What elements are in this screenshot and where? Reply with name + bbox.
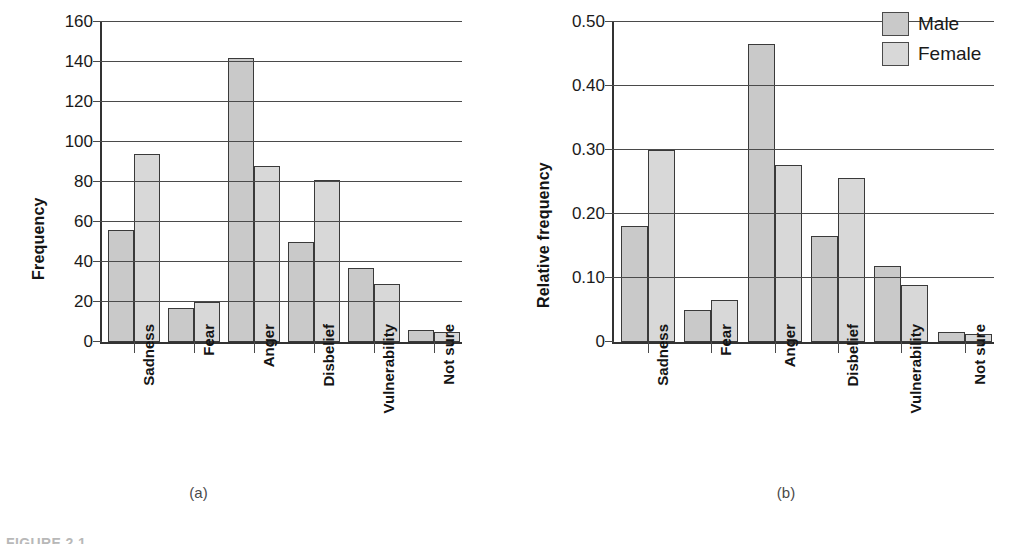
y-axis-tick-label: 60 bbox=[74, 212, 102, 232]
x-axis-label-disbelief: Disbelief bbox=[844, 324, 861, 387]
bar-vulnerability-male bbox=[348, 268, 374, 342]
legend-swatch-male-icon bbox=[882, 12, 909, 36]
y-axis-tick-label: 120 bbox=[65, 92, 102, 112]
bar-group: Disbelief bbox=[282, 22, 342, 342]
x-axis-label-anger: Anger bbox=[781, 324, 798, 367]
bar-group: Not sure bbox=[402, 22, 462, 342]
bar-group: Anger bbox=[222, 22, 282, 342]
gridline bbox=[614, 213, 994, 214]
subcaption-b: (b) bbox=[532, 484, 1015, 501]
y-axis-title-b: Relative frequency bbox=[535, 162, 553, 308]
figure-caption: FIGURE 2.1 bbox=[6, 535, 86, 544]
bar-not-sure-male bbox=[938, 332, 965, 342]
y-axis-tick-label: 140 bbox=[65, 52, 102, 72]
legend-label-male: Male bbox=[918, 13, 959, 35]
bar-group: Anger bbox=[741, 22, 804, 342]
x-axis-label-fear: Fear bbox=[717, 324, 734, 356]
gridline bbox=[102, 221, 462, 222]
bar-sadness-male bbox=[621, 226, 648, 342]
legend-item-female: Female bbox=[882, 40, 981, 68]
chart-panel-a: Frequency SadnessFearAngerDisbeliefVulne… bbox=[0, 0, 507, 500]
x-axis-tick-mark bbox=[711, 342, 712, 353]
y-axis-tick-label: 100 bbox=[65, 132, 102, 152]
x-axis-label-sadness: Sadness bbox=[654, 324, 671, 386]
x-axis-tick-mark bbox=[838, 342, 839, 353]
legend-label-female: Female bbox=[918, 43, 981, 65]
bar-group: Fear bbox=[677, 22, 740, 342]
y-axis-title-a: Frequency bbox=[30, 197, 48, 280]
bar-not-sure-male bbox=[408, 330, 434, 342]
x-axis-label-disbelief: Disbelief bbox=[320, 324, 337, 387]
bar-group: Disbelief bbox=[804, 22, 867, 342]
x-axis-label-sadness: Sadness bbox=[140, 324, 157, 386]
gridline bbox=[614, 277, 994, 278]
subcaption-a: (a) bbox=[0, 484, 452, 501]
bar-disbelief-female bbox=[838, 178, 865, 342]
x-axis-label-anger: Anger bbox=[260, 324, 277, 367]
x-axis-tick-mark bbox=[194, 342, 195, 353]
gridline bbox=[614, 149, 994, 150]
x-axis-label-fear: Fear bbox=[200, 324, 217, 356]
y-axis-tick-label: 160 bbox=[65, 12, 102, 32]
bar-group: Not sure bbox=[931, 22, 994, 342]
bar-sadness-female bbox=[134, 154, 160, 342]
y-axis-tick-label: 0.10 bbox=[572, 268, 614, 288]
x-axis-label-vulnerability: Vulnerability bbox=[907, 324, 924, 413]
gridline bbox=[102, 141, 462, 142]
y-axis-tick-label: 0.30 bbox=[572, 140, 614, 160]
y-axis-tick-label: 20 bbox=[74, 292, 102, 312]
y-axis-tick-label: 0.40 bbox=[572, 76, 614, 96]
x-axis-tick-mark bbox=[254, 342, 255, 353]
x-axis-tick-mark bbox=[314, 342, 315, 353]
y-axis-tick-label: 0 bbox=[84, 332, 102, 352]
x-axis-label-not-sure: Not sure bbox=[440, 324, 457, 385]
legend-swatch-female-icon bbox=[882, 42, 909, 66]
bar-group: Vulnerability bbox=[342, 22, 402, 342]
bar-anger-female bbox=[254, 166, 280, 342]
x-axis-label-vulnerability: Vulnerability bbox=[380, 324, 397, 413]
gridline bbox=[102, 181, 462, 182]
bar-anger-female bbox=[775, 165, 802, 342]
gridline bbox=[102, 21, 462, 22]
chart-panel-b: Relative frequency SadnessFearAngerDisbe… bbox=[507, 0, 1015, 500]
bar-sadness-female bbox=[648, 150, 675, 342]
y-axis-tick-label: 0.20 bbox=[572, 204, 614, 224]
x-axis-tick-mark bbox=[434, 342, 435, 353]
bar-disbelief-male bbox=[811, 236, 838, 342]
gridline bbox=[102, 301, 462, 302]
legend: Male Female bbox=[882, 10, 981, 68]
x-axis-tick-mark bbox=[648, 342, 649, 353]
y-axis-tick-label: 0.50 bbox=[572, 12, 614, 32]
gridline bbox=[102, 101, 462, 102]
bar-group-container-a: SadnessFearAngerDisbeliefVulnerabilityNo… bbox=[102, 22, 462, 342]
bar-group: Sadness bbox=[102, 22, 162, 342]
legend-item-male: Male bbox=[882, 10, 981, 38]
bar-disbelief-male bbox=[288, 242, 314, 342]
bar-fear-male bbox=[168, 308, 194, 342]
x-axis-label-not-sure: Not sure bbox=[971, 324, 988, 385]
x-axis-tick-mark bbox=[374, 342, 375, 353]
x-axis-tick-mark bbox=[965, 342, 966, 353]
bar-sadness-male bbox=[108, 230, 134, 342]
figure-container: Frequency SadnessFearAngerDisbeliefVulne… bbox=[0, 0, 1015, 544]
gridline bbox=[102, 61, 462, 62]
bar-anger-male bbox=[748, 44, 775, 342]
plot-area-a: SadnessFearAngerDisbeliefVulnerabilityNo… bbox=[100, 22, 462, 344]
x-axis-tick-mark bbox=[901, 342, 902, 353]
x-axis-tick-mark bbox=[134, 342, 135, 353]
y-axis-tick-label: 0 bbox=[596, 332, 614, 352]
y-axis-tick-label: 40 bbox=[74, 252, 102, 272]
gridline bbox=[102, 261, 462, 262]
bar-group: Vulnerability bbox=[867, 22, 930, 342]
y-axis-tick-label: 80 bbox=[74, 172, 102, 192]
plot-area-b: SadnessFearAngerDisbeliefVulnerabilityNo… bbox=[612, 22, 994, 344]
bar-group: Fear bbox=[162, 22, 222, 342]
bar-fear-male bbox=[684, 310, 711, 342]
gridline bbox=[614, 85, 994, 86]
bar-group: Sadness bbox=[614, 22, 677, 342]
bar-group-container-b: SadnessFearAngerDisbeliefVulnerabilityNo… bbox=[614, 22, 994, 342]
x-axis-tick-mark bbox=[775, 342, 776, 353]
